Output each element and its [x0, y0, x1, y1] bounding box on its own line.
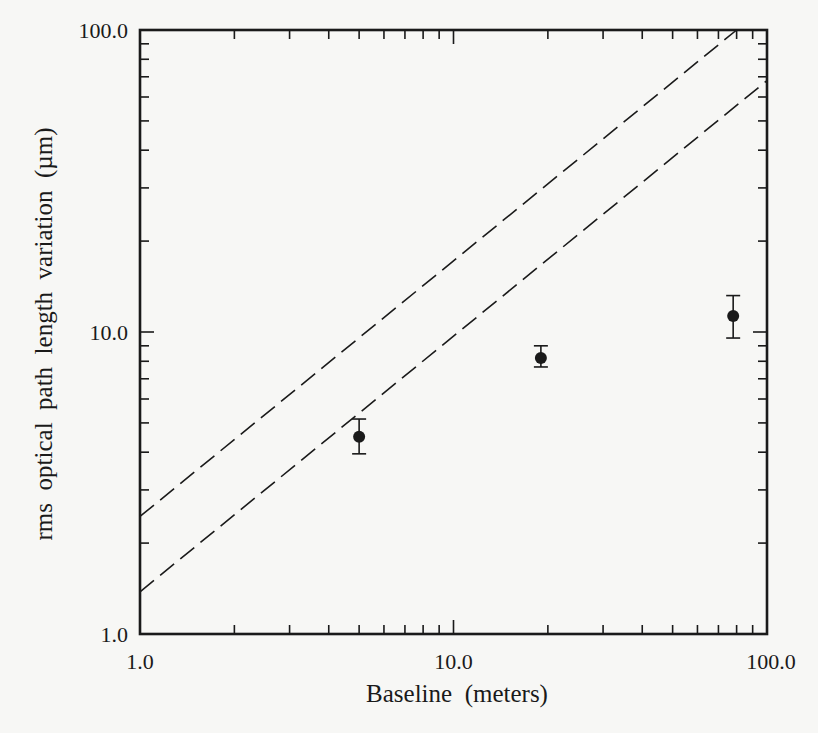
point-marker — [353, 431, 365, 443]
point-marker — [727, 310, 739, 322]
x-axis-label: Baseline (meters) — [366, 680, 548, 708]
data-points — [352, 296, 740, 454]
reference-lines — [140, 30, 767, 592]
upper-dashed-line — [140, 30, 737, 516]
y-axis-label: rms optical path length variation (µm) — [30, 128, 58, 541]
plot-frame — [140, 30, 767, 634]
x-tick-label: 100.0 — [746, 649, 796, 674]
axis-ticks — [140, 30, 767, 634]
y-tick-label: 1.0 — [101, 622, 129, 647]
point-marker — [535, 352, 547, 364]
x-tick-labels: 1.010.0100.0 — [126, 649, 796, 674]
x-tick-label: 10.0 — [434, 649, 473, 674]
data-point — [352, 419, 366, 454]
data-point — [534, 346, 548, 367]
y-tick-label: 10.0 — [90, 320, 129, 345]
x-tick-label: 1.0 — [126, 649, 154, 674]
plot-area — [140, 30, 767, 634]
y-tick-labels: 1.010.0100.0 — [79, 18, 129, 647]
lower-dashed-line — [140, 81, 767, 592]
chart: 1.010.0100.0 1.010.0100.0 Baseline (mete… — [0, 0, 818, 733]
data-point — [726, 296, 740, 338]
y-tick-label: 100.0 — [79, 18, 129, 43]
